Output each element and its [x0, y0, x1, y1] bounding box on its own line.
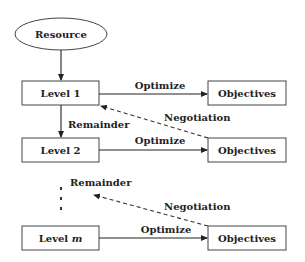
objectives2-label: Objectives: [218, 145, 276, 156]
objectivesm-node: Objectives: [208, 226, 286, 250]
objectives1-node: Objectives: [208, 81, 286, 105]
optimize2-label: Optimize: [135, 135, 186, 146]
negotiationm-label: Negotiation: [164, 201, 231, 212]
optimize1-label: Optimize: [135, 80, 186, 91]
levelm-label: Level m: [39, 233, 82, 244]
remainder1-label: Remainder: [68, 119, 130, 130]
resource-node: Resource: [15, 18, 107, 50]
levelm-node: Level m: [22, 226, 99, 250]
objectives1-label: Objectives: [218, 88, 276, 99]
diagram-canvas: Resource Level 1 Objectives Optimize Neg…: [0, 0, 305, 262]
level2-label: Level 2: [41, 145, 81, 156]
negotiation1-label: Negotiation: [164, 112, 231, 123]
level1-label: Level 1: [41, 88, 81, 99]
remainder2-label: Remainder: [70, 177, 132, 188]
level1-node: Level 1: [22, 81, 99, 105]
level2-node: Level 2: [22, 138, 99, 162]
resource-label: Resource: [35, 29, 87, 40]
objectivesm-label: Objectives: [218, 233, 276, 244]
continuation-dots: [60, 187, 62, 210]
optimizem-label: Optimize: [141, 224, 192, 235]
objectives2-node: Objectives: [208, 138, 286, 162]
